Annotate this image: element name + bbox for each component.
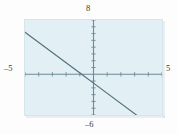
graph-figure: 8 –5 5 –6 xyxy=(0,0,177,134)
frame-shadow-bottom xyxy=(26,116,165,118)
line-series xyxy=(25,32,142,115)
x-axis-min-label: –5 xyxy=(4,64,13,73)
x-axis-max-label: 5 xyxy=(166,64,170,73)
y-axis-min-label: –6 xyxy=(85,120,94,129)
axes-group xyxy=(25,20,162,115)
plot-area xyxy=(24,19,163,116)
y-axis-max-label: 8 xyxy=(86,4,90,13)
frame-shadow-right xyxy=(163,21,165,118)
plot-canvas xyxy=(25,20,162,115)
